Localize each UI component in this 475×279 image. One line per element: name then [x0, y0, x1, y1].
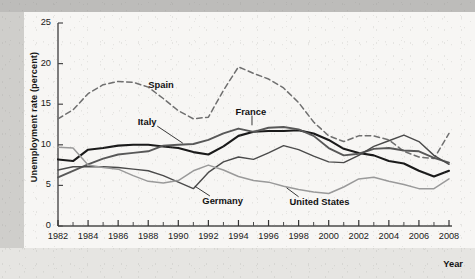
x-tick-label-1984: 1984 [71, 231, 105, 241]
x-tick-label-1996: 1996 [252, 231, 286, 241]
x-tick-label-1990: 1990 [161, 231, 195, 241]
x-axis-title: Year [443, 259, 463, 269]
x-tick-label-2006: 2006 [402, 231, 436, 241]
series-label-united-states: United States [290, 196, 350, 207]
x-tick-label-2000: 2000 [312, 231, 346, 241]
series-label-france: France [235, 106, 266, 117]
x-tick-label-1998: 1998 [282, 231, 316, 241]
series-paths-group [58, 67, 449, 194]
y-tick-label-10: 10 [31, 139, 51, 149]
x-tick-label-2008: 2008 [432, 231, 466, 241]
y-tick-label-15: 15 [31, 98, 51, 108]
y-tick-label-0: 0 [31, 220, 51, 230]
x-tick-label-1992: 1992 [191, 231, 225, 241]
y-tick-label-25: 25 [31, 17, 51, 27]
leader-line-italy [157, 126, 183, 143]
x-tick-label-2004: 2004 [372, 231, 406, 241]
series-label-spain: Spain [148, 79, 174, 90]
x-tick-label-1994: 1994 [221, 231, 255, 241]
x-tick-label-2002: 2002 [342, 231, 376, 241]
y-tick-marks [58, 23, 63, 226]
x-tick-label-1982: 1982 [41, 231, 75, 241]
y-tick-label-5: 5 [31, 179, 51, 189]
x-tick-label-1988: 1988 [131, 231, 165, 241]
series-label-germany: Germany [202, 195, 243, 206]
x-tick-label-1986: 1986 [101, 231, 135, 241]
x-tick-marks [58, 220, 449, 226]
axes-group [58, 23, 452, 226]
figure-page: Unemployment rate (percent) 0510152025 1… [0, 0, 475, 279]
series-label-italy: Italy [138, 116, 157, 127]
y-tick-label-20: 20 [31, 58, 51, 68]
